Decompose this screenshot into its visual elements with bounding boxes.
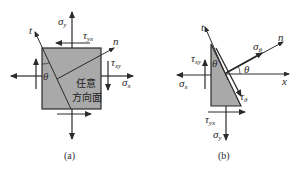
stress-element-figure: t n θ 任意 方向面 σy τyx σx τxy (a) — [0, 0, 298, 174]
theta-label: θ — [43, 70, 49, 82]
tau-xy-label: τxy — [111, 56, 122, 70]
sigma-y-label: σy — [58, 15, 67, 29]
sigma-x-label: σx — [122, 76, 131, 90]
arbitrary-plane-label-1: 任意 — [76, 77, 96, 89]
panel-b: t τθ n σθ x θ θ σx τxy τyx σy (b) — [177, 21, 289, 162]
theta-label-top: θ — [212, 57, 218, 69]
theta-arc-right — [238, 66, 240, 74]
arbitrary-plane-label-2: 方向面 — [72, 91, 102, 103]
x-axis-label: x — [281, 75, 287, 87]
t-axis-label: t — [29, 24, 33, 36]
n-axis-label: n — [278, 31, 284, 43]
tau-xy-label: τxy — [191, 52, 202, 66]
n-axis-label: n — [113, 35, 119, 47]
panel-b-caption: (b) — [218, 150, 230, 162]
theta-label-right: θ — [244, 63, 250, 75]
sigma-y-label: σy — [213, 128, 222, 142]
sigma-theta-label: σθ — [253, 40, 262, 54]
panel-a: t n θ 任意 方向面 σy τyx σx τxy (a) — [11, 12, 133, 162]
tau-theta-label: τθ — [240, 90, 248, 104]
t-axis-label: t — [201, 21, 205, 33]
panel-a-caption: (a) — [64, 150, 75, 162]
sigma-x-label: σx — [179, 77, 188, 91]
tau-yx-label: τyx — [205, 113, 216, 127]
tau-yx-label: τyx — [83, 29, 94, 43]
